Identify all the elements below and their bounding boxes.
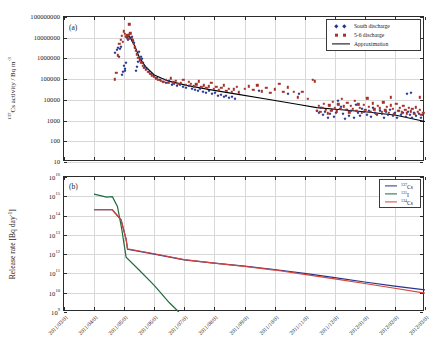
scatter-point	[256, 84, 258, 86]
scatter-point	[307, 98, 309, 100]
panel-a-y-tick-label: 100	[50, 137, 60, 144]
scatter-point	[399, 106, 401, 108]
scatter-point	[343, 105, 345, 107]
scatter-point	[386, 106, 388, 108]
x-tick-mark	[425, 177, 426, 180]
scatter-point	[330, 109, 332, 111]
scatter-point	[135, 49, 137, 51]
scatter-point	[379, 107, 381, 109]
panel-b-x-tick-label: 2011/11/01	[278, 314, 311, 347]
scatter-point	[210, 82, 212, 84]
scatter-point	[352, 116, 355, 119]
scatter-point	[419, 96, 421, 98]
scatter-point	[248, 85, 250, 87]
scatter-point	[126, 34, 128, 36]
x-tick-mark	[425, 17, 426, 20]
scatter-point	[348, 111, 350, 113]
scatter-point	[122, 40, 124, 42]
legend-marker	[343, 34, 346, 37]
scatter-point	[404, 108, 406, 110]
scatter-point	[121, 35, 123, 37]
scatter-point	[182, 78, 184, 80]
legend-item: 5-6 discharge	[327, 31, 420, 40]
panel-b-legend: 137Cs131I134Cs	[379, 179, 421, 208]
scatter-point	[136, 53, 138, 55]
panel-b-y-tick-labels: 1016101510141013101210111010109	[0, 176, 60, 311]
panel-b-y-tick-label: 109	[51, 306, 60, 315]
legend-item: Approximation	[327, 40, 420, 49]
panel-a-y-tick-label: 1000	[47, 116, 60, 123]
scatter-point	[115, 72, 117, 74]
panel-b-x-tick-label: 2012/01/01	[338, 314, 371, 347]
series-line-134Cs	[94, 210, 425, 293]
y-tick-mark	[420, 312, 423, 313]
panel-a-y-tick-label: 100000	[40, 75, 60, 82]
scatter-point	[335, 110, 337, 112]
scatter-point	[406, 112, 408, 114]
panel-b-x-tick-label: 2011/12/01	[308, 314, 341, 347]
legend-label: 131I	[399, 190, 409, 198]
scatter-point	[117, 54, 119, 56]
scatter-point	[357, 103, 359, 105]
scatter-point	[223, 84, 225, 86]
scatter-point	[352, 107, 354, 109]
scatter-point	[228, 87, 230, 89]
series-line-137Cs	[94, 210, 425, 290]
scatter-point	[185, 84, 187, 86]
panel-a-y-tick-label: 1000000	[37, 54, 60, 61]
panel-a-plot-frame: (a) South discharge5-6 dischargeApproxim…	[63, 16, 424, 161]
scatter-point	[364, 109, 366, 111]
scatter-point	[220, 87, 222, 89]
legend-marker-line-icon	[330, 40, 352, 49]
scatter-point	[297, 96, 299, 98]
scatter-point	[368, 106, 370, 108]
scatter-point	[391, 108, 393, 110]
scatter-point	[269, 92, 271, 94]
scatter-point	[328, 104, 330, 106]
panel-a-y-tick-label: 10000000	[34, 33, 60, 40]
legend-marker	[335, 34, 338, 37]
scatter-point	[278, 83, 280, 85]
scatter-point	[167, 82, 169, 84]
scatter-point	[180, 81, 182, 83]
scatter-point	[353, 100, 355, 102]
scatter-point	[128, 23, 130, 25]
scatter-point	[422, 111, 424, 113]
figure-root: 137Cs activity / Bq m-3 1000000001000000…	[0, 0, 433, 359]
scatter-point	[175, 80, 177, 82]
panel-b-x-tick-label: 2012/03/01	[398, 314, 431, 347]
panel-b-x-tick-label: 2011/07/01	[157, 314, 190, 347]
panel-a-tag: (a)	[69, 23, 77, 32]
panel-a-y-tick-label: 100000000	[30, 13, 60, 20]
scatter-point	[313, 80, 315, 82]
legend-line	[385, 185, 397, 186]
scatter-point	[195, 83, 197, 85]
legend-line	[385, 193, 397, 194]
scatter-point	[315, 109, 317, 111]
scatter-point	[420, 114, 422, 116]
scatter-point	[265, 87, 267, 89]
panel-b-y-tick-label: 1014	[49, 210, 60, 219]
scatter-point	[408, 107, 410, 109]
scatter-point	[132, 43, 134, 45]
scatter-point	[409, 110, 411, 112]
panel-b-y-tick-label: 1011	[49, 268, 60, 277]
legend-label: 134Cs	[399, 198, 413, 206]
legend-line	[385, 201, 397, 202]
scatter-point	[235, 86, 237, 88]
scatter-point	[282, 91, 284, 93]
panel-b-y-tick-label: 1016	[49, 171, 60, 180]
scatter-point	[131, 39, 133, 41]
y-tick-mark	[64, 162, 67, 163]
scatter-point	[319, 111, 321, 113]
scatter-point	[317, 105, 319, 107]
scatter-point	[170, 77, 172, 79]
legend-label: 137Cs	[399, 182, 413, 190]
scatter-point	[113, 78, 115, 80]
panel-b-y-tick-label: 1010	[49, 287, 60, 296]
scatter-point	[197, 80, 199, 82]
scatter-point	[337, 103, 339, 105]
legend-label: South discharge	[352, 23, 390, 29]
scatter-point	[397, 109, 399, 111]
scatter-point	[344, 109, 346, 111]
